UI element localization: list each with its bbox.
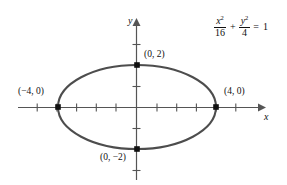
equation-term-x: x2 16 (213, 16, 227, 38)
equation-y-exponent: 2 (245, 14, 248, 21)
equation-term-y: y2 4 (239, 16, 251, 38)
label-vertex-left: (−4, 0) (18, 87, 44, 97)
x-axis-label: x (264, 112, 268, 122)
equation-x-exponent: 2 (221, 14, 224, 21)
ellipse-equation: x2 16 + y2 4 = 1 (212, 16, 268, 38)
equation-y-denominator: 4 (240, 28, 249, 39)
y-axis-label: y (128, 16, 132, 26)
label-vertex-right: (4, 0) (224, 87, 245, 97)
marker-vertex-left (55, 104, 61, 110)
equation-plus-sign: + (230, 22, 236, 32)
marker-vertex-right (213, 104, 219, 110)
equation-right-hand-side: 1 (263, 22, 268, 32)
equation-x-numerator: x2 (214, 16, 226, 28)
equation-equals-sign: = (253, 22, 259, 32)
label-vertex-bottom: (0, −2) (100, 153, 126, 163)
marker-vertex-top (134, 62, 140, 68)
equation-x-denominator: 16 (213, 28, 227, 39)
marker-vertex-bottom (134, 146, 140, 152)
equation-y-numerator: y2 (239, 16, 251, 28)
y-axis-arrowhead (133, 18, 141, 26)
label-vertex-top: (0, 2) (144, 50, 165, 60)
